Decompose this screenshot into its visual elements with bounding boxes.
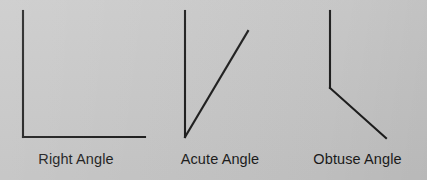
- obtuse-angle-diagonal-ray: [330, 88, 386, 138]
- acute-angle-label: Acute Angle: [152, 152, 288, 167]
- right-angle-diagram: [23, 11, 145, 137]
- obtuse-angle-diagram: [330, 11, 386, 138]
- right-angle-label: Right Angle: [0, 152, 152, 167]
- acute-angle-diagram: [185, 11, 248, 137]
- angles-figure: Right Angle Acute Angle Obtuse Angle: [0, 0, 427, 180]
- acute-angle-diagonal-ray: [185, 31, 248, 137]
- obtuse-angle-label: Obtuse Angle: [288, 152, 427, 167]
